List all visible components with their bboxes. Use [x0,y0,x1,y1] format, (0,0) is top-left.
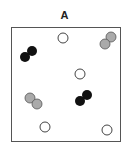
white-atom [40,122,50,132]
white-atom [75,69,85,79]
black-molecule [20,46,37,62]
white-atom [58,33,68,43]
gray-molecule [100,32,116,49]
black-molecule [75,90,92,106]
gray-molecule [25,93,42,109]
white-atom [102,125,112,135]
particle-diagram [0,0,129,153]
